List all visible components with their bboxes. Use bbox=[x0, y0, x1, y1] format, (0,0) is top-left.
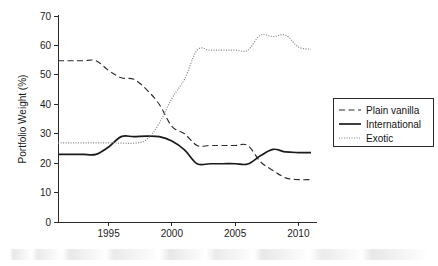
x-tick-label: 1995 bbox=[97, 228, 120, 239]
y-axis-title: Portfolio Weight (%) bbox=[17, 75, 28, 164]
line-chart: 0102030405060701995200020052010Portfolio… bbox=[0, 0, 438, 266]
y-tick-label: 60 bbox=[40, 40, 52, 51]
y-tick-label: 0 bbox=[45, 217, 51, 228]
x-tick-label: 2000 bbox=[161, 228, 184, 239]
y-tick-label: 10 bbox=[40, 187, 52, 198]
caption-artifact bbox=[10, 249, 428, 260]
series-line-plain-vanilla bbox=[58, 60, 311, 180]
series-line-exotic bbox=[58, 34, 311, 143]
x-tick-label: 2010 bbox=[287, 228, 310, 239]
x-tick-label: 2005 bbox=[224, 228, 247, 239]
y-tick-label: 30 bbox=[40, 128, 52, 139]
legend-label-plain-vanilla: Plain vanilla bbox=[366, 105, 420, 116]
legend-label-international: International bbox=[366, 119, 421, 130]
y-tick-label: 50 bbox=[40, 69, 52, 80]
chart-figure: 0102030405060701995200020052010Portfolio… bbox=[0, 0, 438, 266]
series-line-international bbox=[58, 136, 311, 165]
y-tick-label: 20 bbox=[40, 158, 52, 169]
legend-label-exotic: Exotic bbox=[366, 133, 393, 144]
y-tick-label: 70 bbox=[40, 11, 52, 22]
y-tick-label: 40 bbox=[40, 99, 52, 110]
